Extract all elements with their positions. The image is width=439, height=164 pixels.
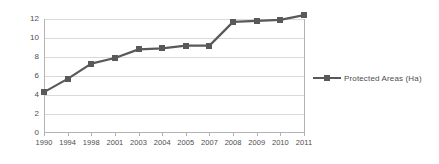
x-tick-mark: [209, 133, 210, 136]
chart-legend: Protected Areas (Ha): [313, 71, 422, 85]
x-tick-label: 2008: [225, 138, 242, 147]
x-tick-label: 2004: [154, 138, 171, 147]
x-tick-label: 2010: [272, 138, 289, 147]
y-tick-label: 2: [18, 110, 39, 118]
y-tick-label: 6: [18, 72, 39, 80]
x-tick-mark: [68, 133, 69, 136]
legend-square-marker-icon: [324, 75, 330, 81]
y-tick-label: 4: [18, 91, 39, 99]
x-tick-label: 2009: [248, 138, 265, 147]
x-tick-mark: [139, 133, 140, 136]
x-tick-mark: [233, 133, 234, 136]
data-point-marker: [65, 76, 71, 82]
x-tick-label: 1998: [83, 138, 100, 147]
x-tick-label: 2011: [296, 138, 312, 147]
x-axis-ticks: [44, 133, 305, 137]
x-tick-label: 1990: [36, 138, 53, 147]
data-point-marker: [136, 46, 142, 52]
x-axis-labels: 1990199419982001200320042005200720082009…: [44, 138, 305, 150]
y-axis-labels: 12 10 8 6 4 2 0: [18, 19, 39, 133]
data-point-marker: [41, 89, 47, 95]
x-tick-label: 2007: [201, 138, 218, 147]
y-tick-label: 0: [18, 129, 39, 137]
x-tick-label: 1994: [59, 138, 76, 147]
data-point-marker: [88, 61, 94, 67]
data-point-marker: [301, 12, 307, 18]
x-tick-mark: [304, 133, 305, 136]
legend-swatch-icon: [313, 73, 341, 83]
x-tick-mark: [280, 133, 281, 136]
data-point-marker: [112, 55, 118, 61]
y-tick-label: 12: [18, 15, 39, 23]
x-tick-mark: [44, 133, 45, 136]
data-point-marker: [183, 43, 189, 49]
x-tick-mark: [91, 133, 92, 136]
data-point-marker: [206, 43, 212, 49]
plot-area: [44, 19, 305, 133]
x-tick-mark: [257, 133, 258, 136]
legend-label: Protected Areas (Ha): [341, 74, 422, 83]
x-tick-label: 2003: [130, 138, 147, 147]
data-point-marker: [277, 17, 283, 23]
series-line-protected-areas: [44, 19, 305, 133]
data-point-marker: [159, 45, 165, 51]
x-tick-mark: [186, 133, 187, 136]
x-tick-mark: [115, 133, 116, 136]
x-tick-label: 2001: [106, 138, 123, 147]
y-tick-label: 10: [18, 34, 39, 42]
line-chart: 12 10 8 6 4 2 0 199019941998200120032004…: [0, 0, 439, 164]
x-tick-mark: [162, 133, 163, 136]
data-point-marker: [230, 19, 236, 25]
data-point-marker: [254, 18, 260, 24]
y-tick-label: 8: [18, 53, 39, 61]
x-tick-label: 2005: [177, 138, 194, 147]
